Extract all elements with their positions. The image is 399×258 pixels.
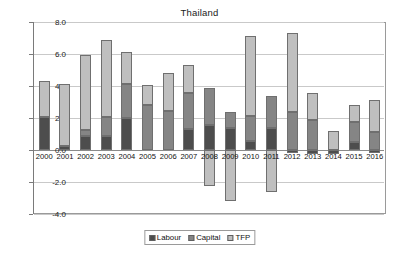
bar-column[interactable] — [204, 22, 215, 214]
x-tick-label: 2000 — [36, 152, 53, 161]
bar-segment-labour — [101, 136, 112, 150]
bar-column[interactable] — [245, 22, 256, 214]
bar-column[interactable] — [287, 22, 298, 214]
bar-segment-labour — [59, 146, 70, 150]
bar-column[interactable] — [80, 22, 91, 214]
bar-segment-tfp — [287, 33, 298, 112]
chart-legend: LabourCapitalTFP — [144, 230, 255, 245]
x-tick-label: 2012 — [284, 152, 301, 161]
chart-container: Thailand 8.06.04.02.00.0-2.0-4.0 2000200… — [0, 0, 399, 258]
bar-column[interactable] — [328, 22, 339, 214]
bar-segment-capital — [349, 122, 360, 142]
bar-segment-capital — [204, 88, 215, 125]
bar-column[interactable] — [163, 22, 174, 214]
bar-segment-capital — [266, 96, 277, 127]
bar-segment-capital — [287, 112, 298, 150]
bar-segment-capital — [142, 105, 153, 150]
legend-item-tfp[interactable]: TFP — [227, 232, 250, 243]
bar-segment-tfp — [39, 81, 50, 117]
x-tick-label: 2003 — [98, 152, 115, 161]
bar-segment-tfp — [101, 40, 112, 118]
bar-segment-capital — [121, 84, 132, 118]
x-tick-label: 2001 — [57, 152, 74, 161]
x-tick-label: 2009 — [222, 152, 239, 161]
bar-segment-capital — [245, 116, 256, 142]
bar-segment-capital — [307, 120, 318, 150]
bar-segment-labour — [204, 125, 215, 150]
x-tick-label: 2013 — [304, 152, 321, 161]
bar-segment-capital — [80, 130, 91, 136]
bar-column[interactable] — [101, 22, 112, 214]
x-tick-label: 2014 — [325, 152, 342, 161]
bar-segment-labour — [349, 142, 360, 150]
bar-segment-capital — [163, 111, 174, 150]
bar-segment-capital — [369, 132, 380, 150]
x-tick-label: 2002 — [77, 152, 94, 161]
bar-segment-tfp — [163, 73, 174, 111]
legend-label: Labour — [157, 232, 181, 243]
gridline--4.0 — [34, 214, 384, 215]
bar-column[interactable] — [142, 22, 153, 214]
legend-label: TFP — [235, 232, 250, 243]
bar-segment-tfp — [59, 84, 70, 146]
tfp-swatch-icon — [227, 235, 233, 241]
bar-segment-tfp — [245, 36, 256, 116]
bar-segment-labour — [39, 117, 50, 150]
bar-segment-tfp — [369, 100, 380, 131]
bar-column[interactable] — [349, 22, 360, 214]
x-tick-label: 2011 — [263, 152, 279, 161]
x-tick-label: 2007 — [180, 152, 197, 161]
bar-column[interactable] — [307, 22, 318, 214]
bar-segment-capital — [225, 112, 236, 128]
bar-column[interactable] — [369, 22, 380, 214]
bar-segment-tfp — [121, 52, 132, 83]
x-tick-label: 2008 — [201, 152, 218, 161]
bar-column[interactable] — [59, 22, 70, 214]
bar-segment-capital — [183, 93, 194, 129]
x-tick-label: 2004 — [118, 152, 135, 161]
bar-segment-labour — [266, 128, 277, 150]
bar-column[interactable] — [225, 22, 236, 214]
bar-segment-tfp — [80, 55, 91, 130]
x-tick-label: 2016 — [366, 152, 383, 161]
bar-segment-tfp — [307, 93, 318, 119]
bar-segment-labour — [183, 129, 194, 150]
bar-segment-tfp — [183, 65, 194, 93]
bar-column[interactable] — [266, 22, 277, 214]
bar-segment-labour — [245, 141, 256, 150]
x-tick-label: 2015 — [346, 152, 363, 161]
bar-segment-capital — [101, 117, 112, 135]
bar-segment-tfp — [142, 85, 153, 105]
x-tick-label: 2005 — [139, 152, 156, 161]
legend-item-labour[interactable]: Labour — [149, 232, 181, 243]
labour-swatch-icon — [149, 235, 155, 241]
capital-swatch-icon — [188, 235, 194, 241]
bar-column[interactable] — [39, 22, 50, 214]
chart-title: Thailand — [0, 7, 399, 18]
x-tick-label: 2010 — [242, 152, 259, 161]
legend-label: Capital — [196, 232, 220, 243]
bar-segment-tfp — [328, 131, 339, 150]
bar-segment-labour — [121, 118, 132, 150]
bar-column[interactable] — [183, 22, 194, 214]
bars-layer — [34, 22, 385, 214]
x-tick-label: 2006 — [160, 152, 177, 161]
bar-column[interactable] — [121, 22, 132, 214]
bar-segment-labour — [225, 128, 236, 150]
bar-segment-labour — [80, 136, 91, 150]
bar-segment-tfp — [349, 105, 360, 122]
legend-item-capital[interactable]: Capital — [188, 232, 220, 243]
